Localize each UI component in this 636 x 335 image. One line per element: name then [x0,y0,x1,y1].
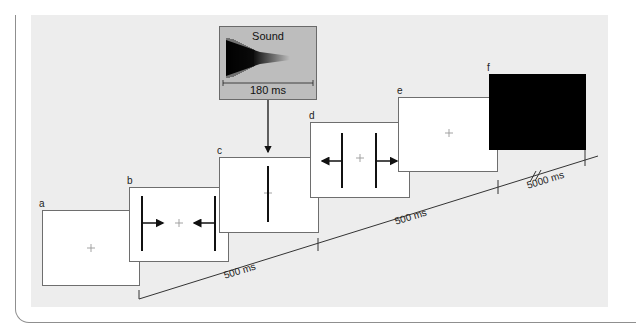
inward-arrows-icon [142,196,215,251]
timeline-axis [139,150,598,299]
outward-arrows-icon [322,133,397,188]
sound-waveform-icon [223,38,313,86]
